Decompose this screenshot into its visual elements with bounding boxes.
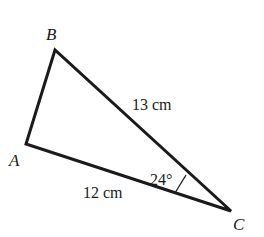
side-label-ac: 12 cm [83,185,123,201]
vertex-label-a: A [9,152,19,169]
triangle-abc [26,50,231,211]
angle-arc-c [175,175,186,193]
angle-label-c: 24° [150,172,172,188]
vertex-label-b: B [46,26,56,43]
side-label-bc: 13 cm [132,97,172,113]
triangle-diagram: B A C 13 cm 12 cm 24° [0,0,264,237]
triangle-figure [0,0,264,237]
vertex-label-c: C [233,216,244,233]
